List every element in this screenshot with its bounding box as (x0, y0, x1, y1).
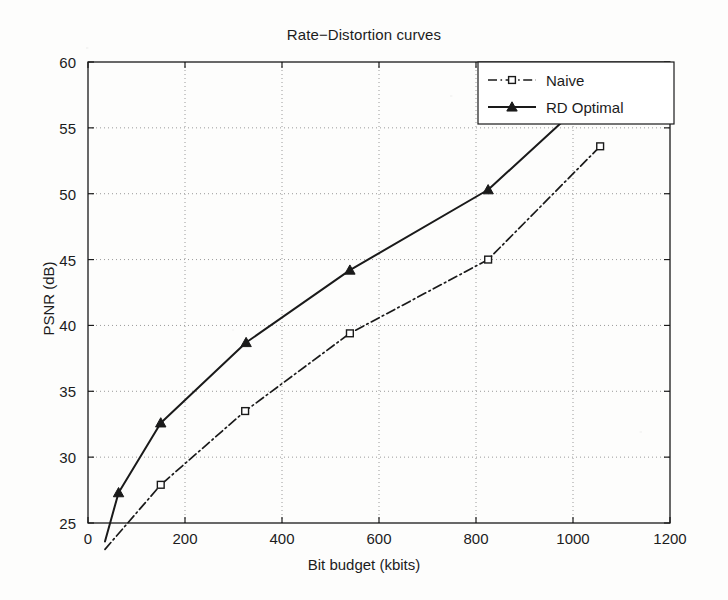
rate-distortion-figure: Rate−Distortion curves Bit budget (kbits… (0, 0, 728, 600)
legend-label: RD Optimal (546, 99, 624, 116)
x-tick-label: 600 (366, 530, 391, 547)
data-point-marker-square (242, 408, 249, 415)
series-naive (105, 143, 604, 549)
page-title: Rate−Distortion curves (0, 26, 728, 43)
plot-canvas: NaiveRD Optimal (0, 0, 728, 600)
plot-frame (88, 62, 670, 523)
y-tick-label: 55 (28, 119, 76, 136)
data-point-marker-triangle (113, 488, 123, 497)
data-point-marker-triangle (241, 337, 251, 346)
data-point-marker-square (347, 330, 354, 337)
x-axis-label: Bit budget (kbits) (0, 556, 728, 573)
data-point-marker-square (509, 77, 516, 84)
series-line (105, 146, 600, 549)
x-tick-label: 800 (463, 530, 488, 547)
x-tick-label: 1200 (653, 530, 686, 547)
legend-label: Naive (546, 72, 584, 89)
y-tick-label: 30 (28, 449, 76, 466)
series-rd-optimal (105, 82, 605, 542)
legend[interactable]: NaiveRD Optimal (478, 62, 674, 124)
y-tick-label: 25 (28, 515, 76, 532)
data-point-marker-square (485, 256, 492, 263)
data-point-marker-triangle (345, 265, 355, 274)
series-line (105, 87, 600, 541)
x-tick-label: 200 (172, 530, 197, 547)
data-series-layer (105, 82, 605, 550)
y-tick-label: 50 (28, 185, 76, 202)
y-tick-label: 35 (28, 383, 76, 400)
y-axis-label: PSNR (dB) (40, 219, 57, 379)
x-tick-label: 0 (84, 530, 92, 547)
y-tick-label: 45 (28, 251, 76, 268)
gridlines (88, 62, 670, 523)
y-tick-label: 40 (28, 317, 76, 334)
y-tick-label: 60 (28, 54, 76, 71)
data-point-marker-square (597, 143, 604, 150)
data-point-marker-square (157, 481, 164, 488)
axis-ticks (88, 62, 670, 523)
x-tick-label: 1000 (556, 530, 589, 547)
x-tick-label: 400 (269, 530, 294, 547)
